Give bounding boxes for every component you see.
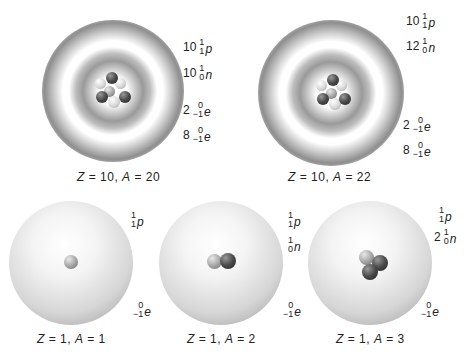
hydrogen-3-electron-label: 0−1e	[421, 297, 439, 319]
neon-20-proton-count: 1011p	[183, 38, 212, 56]
hydrogen-2-neutron-label: 10n	[288, 232, 301, 254]
neon-20-caption: Z = 10, A = 20	[77, 170, 160, 184]
hydrogen-1-electron-label: 0−1e	[133, 297, 151, 319]
neon-22-outer-electron-count: 80−1e	[403, 141, 431, 159]
neutron-ball	[362, 264, 378, 280]
hydrogen-1-caption: Z = 1, A = 1	[37, 332, 106, 346]
neutron-ball	[220, 253, 236, 269]
proton-ball	[64, 255, 78, 269]
proton-ball	[317, 93, 329, 105]
proton-ball	[339, 93, 351, 105]
hydrogen-3-neutron-label: 210n	[434, 228, 456, 246]
hydrogen-3-proton-label: 11p	[439, 202, 452, 224]
proton-ball	[119, 91, 131, 103]
neon-22-caption: Z = 10, A = 22	[288, 170, 371, 184]
proton-ball	[96, 91, 108, 103]
hydrogen-2-caption: Z = 1, A = 2	[187, 332, 256, 346]
hydrogen-2-proton-label: 11p	[288, 207, 301, 229]
neon-22-neutron-count: 1210n	[406, 37, 435, 55]
neon-20-outer-electron-count: 80−1e	[183, 126, 211, 144]
neon-20-neutron-count: 1010n	[183, 64, 212, 82]
neon-22-inner-electron-count: 20−1e	[403, 116, 431, 134]
neon-20-inner-electron-count: 20−1e	[183, 101, 211, 119]
neutron-ball	[316, 80, 327, 91]
neon-22-proton-count: 1011p	[406, 12, 435, 30]
hydrogen-2-electron-label: 0−1e	[283, 297, 301, 319]
proton-ball	[106, 72, 118, 84]
hydrogen-1-proton-label: 11p	[131, 207, 144, 229]
proton-ball	[327, 74, 339, 86]
hydrogen-3-caption: Z = 1, A = 3	[336, 332, 405, 346]
